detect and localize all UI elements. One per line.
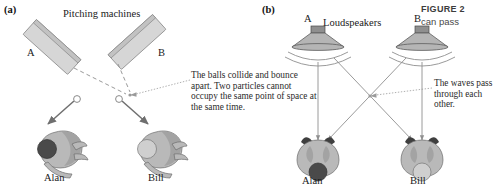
figure-caption-text: can pass: [421, 16, 499, 27]
person-alan-head-a: [38, 131, 89, 178]
wave-b-to-alan: [328, 58, 406, 140]
speaker-a-label: A: [304, 13, 312, 24]
machine-a-label: A: [27, 47, 35, 58]
ball-right: [116, 96, 123, 103]
figure-caption: FIGURE 2 can pass: [421, 4, 499, 27]
machine-b-label: B: [158, 47, 165, 58]
person-alan-label-b: Alan: [302, 175, 322, 186]
annotation-leader-b: [376, 88, 432, 95]
panel-a: (a) Pitching machines: [0, 0, 256, 191]
wave-arc-a1: [288, 52, 348, 60]
figure-container: (a) Pitching machines: [0, 0, 501, 191]
panel-b-annotation: The waves pass through each other.: [434, 78, 501, 110]
ball-hitting-alan: [38, 140, 57, 159]
wave-a-to-bill: [334, 58, 412, 140]
rebound-arrow-alan: [48, 101, 74, 124]
ball-left: [74, 96, 81, 103]
person-bill-head-a: [138, 131, 189, 178]
rebound-arrow-bill: [122, 101, 148, 124]
annotation-leader-a: [136, 80, 190, 94]
speaker-b-label: B: [414, 13, 421, 24]
loudspeaker-b: [389, 26, 455, 66]
panel-b: (b) Loudspeakers: [256, 0, 501, 191]
person-bill-label-b: Bill: [410, 175, 426, 186]
wave-arc-b1: [392, 52, 452, 60]
ball-path-a: [74, 68, 126, 94]
person-bill-label-a: Bill: [148, 172, 164, 183]
ball-hitting-bill: [138, 140, 157, 159]
loudspeaker-a: [285, 26, 351, 66]
figure-number: FIGURE 2: [421, 4, 499, 14]
pitching-machine-b: [108, 14, 166, 69]
person-alan-label-a: Alan: [44, 172, 64, 183]
